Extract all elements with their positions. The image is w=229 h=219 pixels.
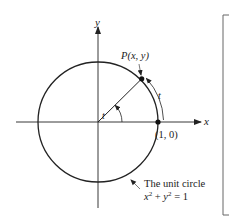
panel-border xyxy=(223,15,229,215)
point-1-0-label: (1, 0) xyxy=(155,129,178,141)
arc-label: t xyxy=(158,90,161,101)
caption-pointer xyxy=(131,180,140,189)
arc-length-indicator xyxy=(147,79,164,121)
point-1-0 xyxy=(155,119,160,124)
point-P-label: P(x, y) xyxy=(120,50,149,62)
unit-circle-diagram: x y t t P(x, y) (1, 0) The unit circle x… xyxy=(0,0,229,219)
point-P xyxy=(139,76,144,81)
caption-title: The unit circle xyxy=(144,178,206,189)
point-P-pointer xyxy=(139,64,141,75)
angle-label: t xyxy=(102,110,105,121)
x-axis-label: x xyxy=(203,115,209,127)
y-axis-label: y xyxy=(94,16,100,28)
caption-equation: x2 + y2 = 1 xyxy=(143,190,188,202)
angle-arc xyxy=(115,105,122,122)
